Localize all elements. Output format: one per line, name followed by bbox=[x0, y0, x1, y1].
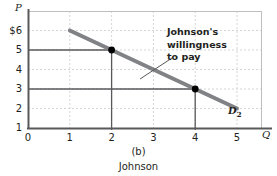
x-axis-label: Q bbox=[262, 129, 270, 140]
y-tick-label-6: $6 bbox=[0, 25, 22, 36]
x-tick-label-5: 5 bbox=[230, 132, 244, 143]
figure-caption-title: Johnson bbox=[0, 161, 277, 172]
curve-label-d2: D2 bbox=[228, 105, 242, 119]
annotation-willingness-to-pay: Johnson's willingness to pay bbox=[167, 26, 263, 64]
y-tick-label-1: 1 bbox=[0, 122, 22, 133]
chart-figure: P Q $6 5 4 3 2 1 0 1 2 3 4 5 Johnson's w… bbox=[0, 0, 277, 176]
x-tick-label-0: 0 bbox=[21, 132, 35, 143]
y-tick-label-5: 5 bbox=[0, 44, 22, 55]
data-point-marker bbox=[108, 47, 115, 54]
curve-label-subscript: 2 bbox=[237, 110, 242, 119]
y-tick-label-4: 4 bbox=[0, 64, 22, 75]
data-point-marker bbox=[192, 86, 199, 93]
annotation-line-2: willingness bbox=[167, 39, 263, 52]
panel-caption: (b) bbox=[0, 146, 277, 157]
x-tick-label-1: 1 bbox=[63, 132, 77, 143]
annotation-line-1: Johnson's bbox=[167, 26, 263, 39]
x-tick-label-3: 3 bbox=[146, 132, 160, 143]
x-tick-label-4: 4 bbox=[188, 132, 202, 143]
curve-label-letter: D bbox=[228, 105, 237, 116]
annotation-line-3: to pay bbox=[167, 51, 263, 64]
y-tick-label-3: 3 bbox=[0, 83, 22, 94]
y-tick-label-2: 2 bbox=[0, 103, 22, 114]
x-tick-label-2: 2 bbox=[105, 132, 119, 143]
y-axis-label: P bbox=[15, 2, 22, 13]
